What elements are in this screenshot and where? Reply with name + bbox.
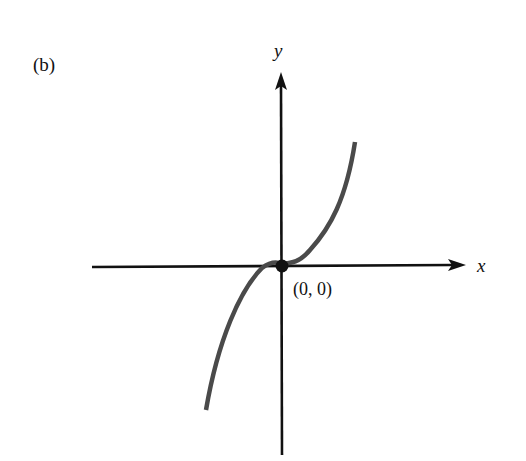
x-axis-label: x	[476, 255, 486, 276]
origin-label: (0, 0)	[293, 279, 332, 300]
y-axis-label: y	[272, 40, 283, 61]
panel-label: (b)	[33, 54, 55, 76]
cubic-graph-figure: (b) y x (0, 0)	[0, 0, 526, 461]
origin-point	[276, 260, 289, 273]
